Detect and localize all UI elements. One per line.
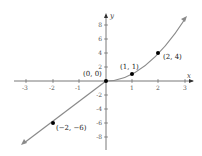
curve-arrow-icon — [181, 16, 187, 22]
point-label: (2, 4) — [163, 53, 182, 61]
data-point — [104, 79, 108, 83]
data-point — [156, 51, 160, 55]
y-tick-label: -8 — [96, 133, 102, 140]
y-axis-arrow-icon — [104, 13, 108, 18]
x-tick-label: 1 — [130, 84, 134, 91]
y-tick-label: -2 — [96, 91, 102, 98]
y-tick-label: 8 — [98, 21, 102, 28]
chart: x y -3 -2 -1 1 2 3 8 6 4 2 -2 -4 -6 -8 (… — [0, 0, 202, 156]
x-tick-label: -3 — [22, 84, 28, 91]
point-label: (1, 1) — [120, 63, 139, 71]
function-curve — [106, 19, 185, 81]
x-tick-label: 2 — [156, 84, 160, 91]
y-tick-label: 6 — [98, 35, 102, 42]
y-tick-label: -6 — [96, 119, 102, 126]
x-tick-label: 3 — [183, 84, 187, 91]
data-point — [51, 121, 55, 125]
y-tick-label: 2 — [98, 63, 102, 70]
x-tick-label: -1 — [75, 84, 81, 91]
y-tick-label: -4 — [96, 105, 102, 112]
x-axis-label: x — [187, 72, 191, 80]
point-label: (−2, −6) — [56, 124, 87, 132]
curve-arrow-icon — [21, 139, 27, 145]
y-axis-label: y — [109, 12, 115, 20]
x-tick-label: -2 — [49, 84, 55, 91]
y-tick-label: 4 — [98, 49, 102, 56]
function-curve — [24, 81, 106, 143]
data-point — [130, 72, 134, 76]
point-label: (0, 0) — [83, 70, 102, 78]
